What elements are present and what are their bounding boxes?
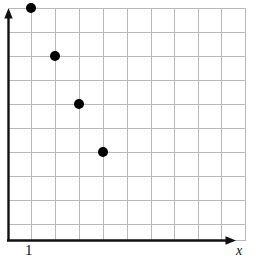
- scatter-plot-canvas: [0, 0, 263, 261]
- data-point: [50, 51, 60, 61]
- x-axis-title: x: [236, 244, 242, 258]
- x-axis-tick-label-1: 1: [25, 243, 33, 258]
- grid-lines: [9, 9, 246, 241]
- data-point: [26, 3, 36, 13]
- y-axis: [4, 8, 12, 241]
- y-axis-arrow-icon: [4, 8, 12, 19]
- figure-root: 1 x: [0, 0, 263, 261]
- x-axis-arrow-icon: [226, 236, 237, 244]
- data-point: [98, 147, 108, 157]
- data-point: [74, 99, 84, 109]
- x-axis: [7, 236, 236, 244]
